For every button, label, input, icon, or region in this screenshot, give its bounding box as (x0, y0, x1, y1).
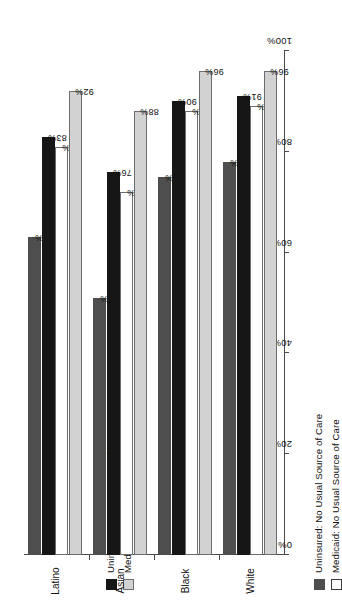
bar-white-dgray[interactable] (223, 162, 236, 555)
bar-value-label: 96% (205, 67, 239, 77)
bar-latino-dgray[interactable] (28, 237, 41, 555)
bar-asian-lgray[interactable] (134, 111, 147, 555)
category-label-black: Black (180, 561, 191, 600)
axis-tick-label: 100% (267, 36, 292, 47)
axis-tick (284, 252, 289, 253)
category-label-latino: Latino (50, 561, 61, 600)
bar-asian-white[interactable] (120, 192, 133, 555)
bar-value-label: 96% (270, 67, 304, 77)
axis-tick (284, 554, 289, 555)
legend-swatch-uninsured-no-usual-icon (314, 579, 325, 590)
plot-area: 100%80%60%40%20%0% 63%83%81%92%51%76%72%… (24, 51, 284, 555)
bar-black-dgray[interactable] (158, 177, 171, 555)
bar-asian-dgray[interactable] (93, 298, 106, 555)
bar-latino-white[interactable] (55, 147, 68, 555)
bar-value-label: 88% (140, 107, 174, 117)
bar-latino-black[interactable] (42, 137, 55, 555)
bar-value-label: 92% (75, 87, 109, 97)
bar-black-white[interactable] (185, 111, 198, 555)
category-separator-tick (89, 555, 90, 560)
value-axis-line (284, 51, 285, 555)
bar-white-lgray[interactable] (264, 71, 277, 555)
axis-tick (284, 352, 289, 353)
bar-white-white[interactable] (250, 106, 263, 555)
axis-tick (284, 453, 289, 454)
chart-rotated-container: Uninsured: Usual Source of Care Medicaid… (0, 0, 342, 600)
bar-white-black[interactable] (237, 96, 250, 555)
legend-swatch-medicaid-no-usual-icon (331, 579, 342, 590)
category-label-white: White (245, 561, 256, 600)
category-separator-tick (154, 555, 155, 560)
legend-label: Medicaid: No Usual Source of Care (330, 419, 341, 573)
bar-asian-black[interactable] (107, 172, 120, 555)
axis-tick (284, 151, 289, 152)
category-label-asian: Asian (115, 561, 126, 600)
chart-canvas: Uninsured: Usual Source of Care Medicaid… (0, 0, 342, 600)
axis-tick (284, 50, 289, 51)
bar-black-lgray[interactable] (199, 71, 212, 555)
category-separator-tick (219, 555, 220, 560)
legend-label: Uninsured: No Usual Source of Care (313, 414, 324, 573)
bar-black-black[interactable] (172, 101, 185, 555)
bar-latino-lgray[interactable] (69, 91, 82, 555)
axis-tick-label: 0% (278, 540, 292, 551)
